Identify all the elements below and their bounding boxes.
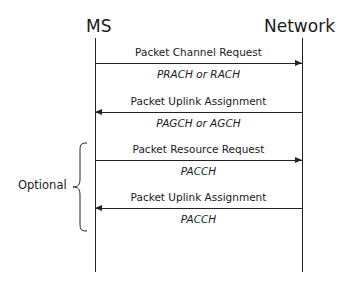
arrowhead-left-icon bbox=[95, 109, 102, 115]
message-label: Packet Channel Request bbox=[95, 46, 302, 58]
optional-group-label: Optional bbox=[18, 178, 67, 192]
message-line bbox=[95, 160, 302, 161]
channel-label: PACCH bbox=[95, 213, 302, 225]
arrowhead-right-icon bbox=[295, 157, 302, 163]
channel-label: PAGCH or AGCH bbox=[95, 117, 302, 129]
message-label: Packet Uplink Assignment bbox=[95, 191, 302, 203]
message-line bbox=[95, 208, 302, 209]
message-label: Packet Resource Request bbox=[95, 143, 302, 155]
network-lifeline bbox=[302, 38, 303, 272]
message-line bbox=[95, 112, 302, 113]
message-line bbox=[95, 63, 302, 64]
curly-brace-icon bbox=[70, 141, 90, 233]
message-label: Packet Uplink Assignment bbox=[95, 95, 302, 107]
arrowhead-right-icon bbox=[295, 60, 302, 66]
arrowhead-left-icon bbox=[95, 205, 102, 211]
participant-ms-label: MS bbox=[86, 16, 111, 36]
participant-network-label: Network bbox=[264, 16, 335, 36]
channel-label: PACCH bbox=[95, 165, 302, 177]
channel-label: PRACH or RACH bbox=[95, 68, 302, 80]
